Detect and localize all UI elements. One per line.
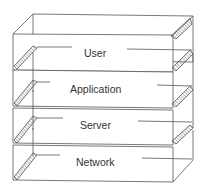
layer-user [13, 14, 193, 72]
layer-label-server: Server [80, 119, 111, 131]
layer-label-user: User [84, 47, 107, 59]
layer-label-application: Application [70, 83, 122, 95]
layer-label-network: Network [76, 156, 115, 168]
layer-stack-diagram: User Application Server Network [0, 0, 209, 189]
